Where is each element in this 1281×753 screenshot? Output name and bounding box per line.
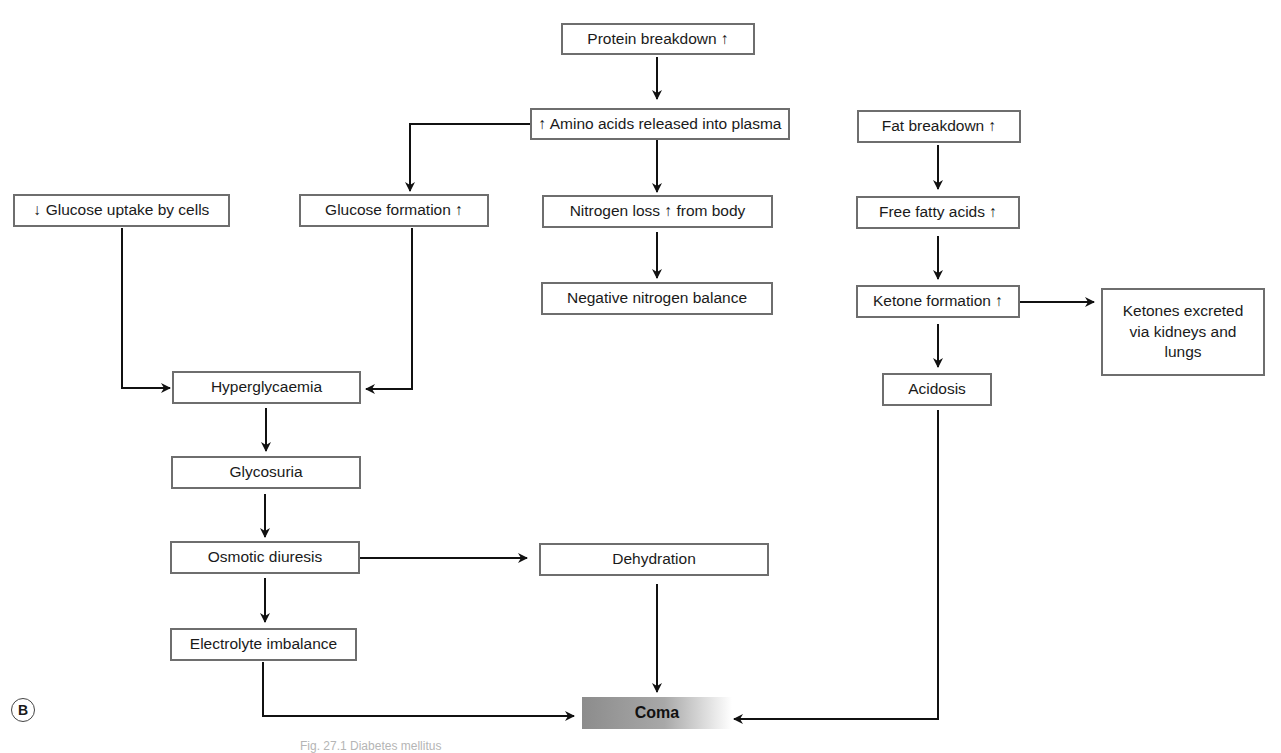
node-protein-breakdown: Protein breakdown ↑	[561, 23, 755, 55]
node-ketones-excreted: Ketones excreted via kidneys and lungs	[1101, 288, 1265, 376]
node-glucose-formation: Glucose formation ↑	[299, 194, 489, 227]
node-ketone-formation: Ketone formation ↑	[856, 285, 1020, 318]
node-osmotic-diuresis: Osmotic diuresis	[170, 541, 360, 574]
node-glycosuria: Glycosuria	[171, 456, 361, 489]
node-free-fatty-acids: Free fatty acids ↑	[856, 196, 1020, 229]
node-glucose-uptake: ↓ Glucose uptake by cells	[13, 194, 230, 227]
node-acidosis: Acidosis	[882, 373, 992, 406]
node-nitrogen-loss: Nitrogen loss ↑ from body	[542, 195, 773, 228]
node-hyperglycaemia: Hyperglycaemia	[172, 371, 361, 404]
arrow-electrolyte-to-coma	[263, 662, 574, 716]
node-fat-breakdown: Fat breakdown ↑	[857, 110, 1021, 143]
node-electrolyte-imbalance: Electrolyte imbalance	[170, 628, 357, 661]
arrow-amino-to-glucose-formation	[410, 124, 530, 191]
node-negative-nitrogen-balance: Negative nitrogen balance	[541, 282, 773, 315]
node-coma: Coma	[582, 697, 732, 729]
figure-caption: Fig. 27.1 Diabetes mellitus	[300, 739, 441, 753]
arrow-uptake-to-hyperglycaemia	[122, 228, 170, 388]
arrow-formation-to-hyperglycaemia	[366, 228, 412, 389]
node-dehydration: Dehydration	[539, 543, 769, 576]
panel-label: B	[11, 698, 35, 722]
node-amino-acids: ↑ Amino acids released into plasma	[530, 108, 790, 140]
